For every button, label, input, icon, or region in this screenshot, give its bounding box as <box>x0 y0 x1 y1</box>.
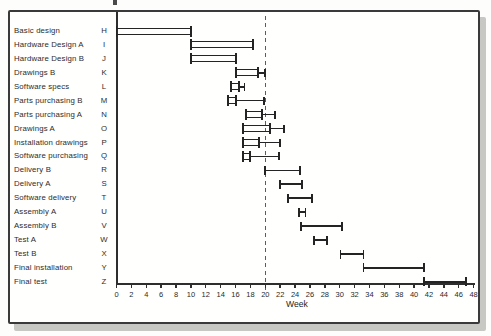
x-axis-tick-label-4: 4 <box>138 290 154 299</box>
x-axis-tick-label-6: 6 <box>153 290 169 299</box>
bar-start-cap-H <box>116 26 118 37</box>
task-label-M: Parts purchasing B <box>14 96 83 106</box>
task-code-H: H <box>97 26 111 36</box>
bar-end-tick-Y <box>423 263 425 272</box>
x-axis-tick-label-0: 0 <box>109 290 125 299</box>
task-label-T: Software delivery <box>14 193 76 203</box>
bar-start-cap-N <box>245 109 247 120</box>
x-axis-tick-label-22: 22 <box>272 290 288 299</box>
x-axis-title: Week <box>257 299 337 309</box>
task-label-H: Basic design <box>14 26 60 36</box>
slack-end-tick-Q <box>278 152 280 160</box>
task-label-P: Installation drawings <box>14 138 88 148</box>
y-axis-line <box>116 12 118 283</box>
x-axis-tick-label-8: 8 <box>168 290 184 299</box>
bar-end-tick-V <box>341 222 343 231</box>
x-axis-tick-label-48: 48 <box>466 290 482 299</box>
gantt-bar-I <box>191 41 253 48</box>
bar-end-tick-R <box>299 166 301 175</box>
task-label-Q: Software purchasing <box>14 151 88 161</box>
x-axis-tick-28 <box>324 283 325 288</box>
gantt-bar-R <box>265 170 300 172</box>
task-code-U: U <box>97 207 111 217</box>
task-label-X: Test B <box>14 249 37 259</box>
gantt-bar-O <box>243 125 270 132</box>
bar-start-tick-V <box>300 222 302 231</box>
x-axis-tick-20 <box>265 283 266 288</box>
x-axis-tick-38 <box>399 283 400 288</box>
bar-end-cap-H <box>190 26 192 37</box>
x-axis-tick-2 <box>131 283 132 288</box>
x-axis-tick-46 <box>458 283 459 288</box>
task-code-T: T <box>97 193 111 203</box>
x-axis-tick-22 <box>279 283 280 288</box>
x-axis-tick-label-2: 2 <box>123 290 139 299</box>
slack-line-N <box>262 114 275 116</box>
slack-end-tick-P <box>279 139 281 147</box>
slack-end-tick-N <box>274 111 276 119</box>
task-code-J: J <box>97 54 111 64</box>
bar-start-cap-L <box>230 81 232 92</box>
bar-end-cap-J <box>235 53 237 64</box>
x-axis-tick-8 <box>175 283 176 288</box>
slack-line-M <box>236 100 264 102</box>
x-axis-tick-label-12: 12 <box>198 290 214 299</box>
gantt-bar-S <box>280 183 302 185</box>
task-label-O: Drawings A <box>14 124 55 134</box>
slack-end-tick-L <box>244 83 246 91</box>
slack-line-P <box>259 142 281 144</box>
task-code-Y: Y <box>97 263 111 273</box>
task-code-O: O <box>97 124 111 134</box>
x-axis-tick-label-30: 30 <box>332 290 348 299</box>
x-axis-tick-label-40: 40 <box>406 290 422 299</box>
bar-start-cap-P <box>242 137 244 148</box>
x-axis-tick-14 <box>220 283 221 288</box>
task-label-V: Assembly B <box>14 221 57 231</box>
bar-start-tick-U <box>298 208 300 217</box>
x-axis-tick-44 <box>443 283 444 288</box>
bar-start-tick-S <box>279 180 281 189</box>
task-code-P: P <box>97 138 111 148</box>
bar-end-tick-U <box>305 208 307 217</box>
gantt-bar-V <box>301 225 342 227</box>
task-code-M: M <box>97 96 111 106</box>
task-code-Z: Z <box>97 277 111 287</box>
bar-end-tick-X <box>363 250 365 259</box>
gantt-bar-X <box>340 253 363 255</box>
x-axis-tick-label-32: 32 <box>347 290 363 299</box>
task-code-K: K <box>97 68 111 78</box>
x-axis-tick-48 <box>473 283 474 288</box>
slack-end-tick-O <box>283 125 285 133</box>
slack-end-tick-K <box>264 69 266 77</box>
task-code-N: N <box>97 110 111 120</box>
x-axis-tick-label-18: 18 <box>242 290 258 299</box>
x-axis-tick-12 <box>205 283 206 288</box>
task-label-U: Assembly A <box>14 207 56 217</box>
x-axis-tick-26 <box>309 283 310 288</box>
bar-start-tick-Y <box>363 263 365 272</box>
x-axis-tick-34 <box>369 283 370 288</box>
task-code-W: W <box>97 235 111 245</box>
slack-line-Q <box>250 156 279 158</box>
x-axis-tick-40 <box>413 283 414 288</box>
task-code-Q: Q <box>97 151 111 161</box>
task-label-J: Hardware Design B <box>14 54 84 64</box>
bar-start-tick-R <box>264 166 266 175</box>
bar-start-cap-O <box>242 123 244 134</box>
task-code-L: L <box>97 82 111 92</box>
x-axis-tick-6 <box>160 283 161 288</box>
x-axis-tick-label-34: 34 <box>361 290 377 299</box>
x-axis-tick-label-38: 38 <box>391 290 407 299</box>
gantt-bar-W <box>314 239 327 241</box>
x-axis-tick-0 <box>116 283 117 288</box>
gantt-bar-Z <box>424 281 466 283</box>
time-now-dashed-line <box>265 16 267 291</box>
x-axis-tick-16 <box>235 283 236 288</box>
task-label-N: Parts purchasing A <box>14 110 82 120</box>
task-code-X: X <box>97 249 111 259</box>
gantt-bar-N <box>246 111 262 118</box>
task-label-Y: Final installation <box>14 263 73 273</box>
bar-start-cap-Q <box>242 151 244 162</box>
x-axis-tick-label-26: 26 <box>302 290 318 299</box>
x-axis-tick-24 <box>294 283 295 288</box>
